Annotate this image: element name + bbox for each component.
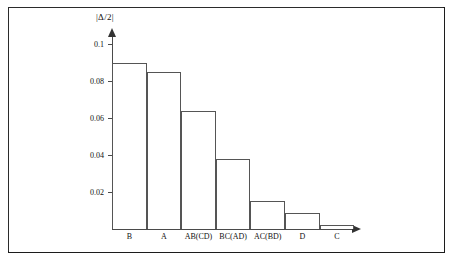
- y-axis-title: |Δ/2|: [96, 12, 114, 22]
- y-tick-label-4: 0.02: [74, 188, 104, 197]
- bar-c: [320, 225, 355, 229]
- pareto-chart-figure: |Δ/2| 0.1 0.08 0.06 0.04 0.02 BAAB(CD)BC…: [0, 0, 456, 269]
- y-tick-label-0: 0.1: [74, 40, 104, 49]
- x-axis-label: C: [334, 232, 339, 241]
- y-tick-label-1: 0.08: [74, 77, 104, 86]
- y-axis-arrow-icon: [108, 28, 116, 37]
- x-axis-label: D: [299, 232, 305, 241]
- bar-abcd: [181, 111, 216, 229]
- bar-a: [147, 72, 182, 229]
- plot-area: |Δ/2| 0.1 0.08 0.06 0.04 0.02 BAAB(CD)BC…: [0, 0, 456, 269]
- y-tick-mark: [108, 44, 113, 45]
- bar-b: [112, 63, 147, 230]
- x-axis-label: AB(CD): [185, 232, 213, 241]
- bar-d: [285, 213, 320, 229]
- x-axis-label: B: [127, 232, 132, 241]
- x-axis-label: BC(AD): [219, 232, 247, 241]
- x-axis-label: A: [161, 232, 167, 241]
- bar-bcad: [216, 159, 251, 229]
- x-axis-label: AC(BD): [254, 232, 282, 241]
- x-axis-line: [112, 229, 355, 230]
- y-tick-label-2: 0.06: [74, 114, 104, 123]
- y-tick-label-3: 0.04: [74, 151, 104, 160]
- bar-acbd: [250, 201, 285, 229]
